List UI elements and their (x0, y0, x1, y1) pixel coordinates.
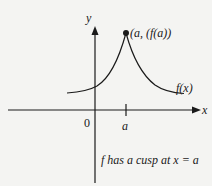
x-axis-arrow-icon (192, 107, 201, 114)
curve-fx (67, 33, 184, 94)
caption: f has a cusp at x = a (101, 153, 199, 167)
cusp-point (123, 30, 129, 36)
y-axis-arrow-icon (92, 26, 99, 35)
curve-label: f(x) (176, 81, 193, 95)
y-axis-label: y (85, 11, 92, 25)
cusp-diagram: y x 0 a (a, (f(a)) f(x) f has a cusp at … (0, 0, 212, 186)
tick-a-label: a (122, 119, 128, 133)
x-axis-label: x (201, 103, 208, 117)
cusp-point-label: (a, (f(a)) (130, 26, 171, 40)
origin-label: 0 (84, 116, 90, 130)
